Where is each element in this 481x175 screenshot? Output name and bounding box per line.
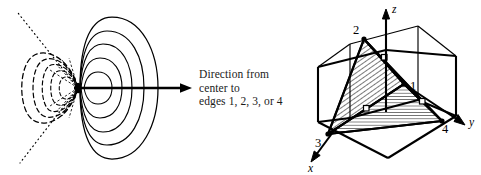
vertex-dot-1 [401,81,406,86]
dashed-contour-4 [33,59,78,118]
vertex-label-1: 1 [410,79,416,93]
dashed-contour-5 [22,53,78,123]
caption-line-2: center to [199,82,283,96]
axis-z-arrowhead [382,9,389,19]
vertex-dot-2 [361,36,366,41]
focal-point-marker [74,83,81,93]
cube-edge-back-top [350,26,418,44]
cube-edge-depth-top-right [418,26,456,56]
dashed-contour-group [22,53,78,123]
figure-root: Direction from center to edges 1, 2, 3, … [0,0,481,175]
axis-label-y: y [468,116,475,129]
direction-caption: Direction from center to edges 1, 2, 3, … [199,68,283,109]
spoke-5 [62,88,78,116]
vertex-label-2: 2 [353,23,359,37]
vertex-dot-3 [325,131,330,136]
vertex-dot-4 [439,118,444,123]
vertex-label-3: 3 [315,136,321,150]
midpoint-marker-b [364,106,370,112]
spoke-2 [62,60,78,88]
midpoint-marker-c [420,99,426,105]
contour-plot-panel [0,0,200,175]
dashed-contour-3 [42,64,78,111]
direction-arrow-head [180,83,192,93]
axis-label-z: z [391,3,397,15]
dotted-cone-rays [18,13,78,163]
caption-line-3: edges 1, 2, 3, or 4 [199,95,283,109]
cube-tetrahedron-panel: z y x 1 2 3 4 [306,0,481,175]
caption-line-1: Direction from [199,68,283,82]
dotted-ray-lower [20,88,78,163]
vertex-label-4: 4 [442,122,449,136]
dotted-ray-upper [18,13,78,88]
axis-label-x: x [307,162,314,174]
direction-arrow [74,83,192,93]
cube-edge-top-right-front [386,50,456,56]
